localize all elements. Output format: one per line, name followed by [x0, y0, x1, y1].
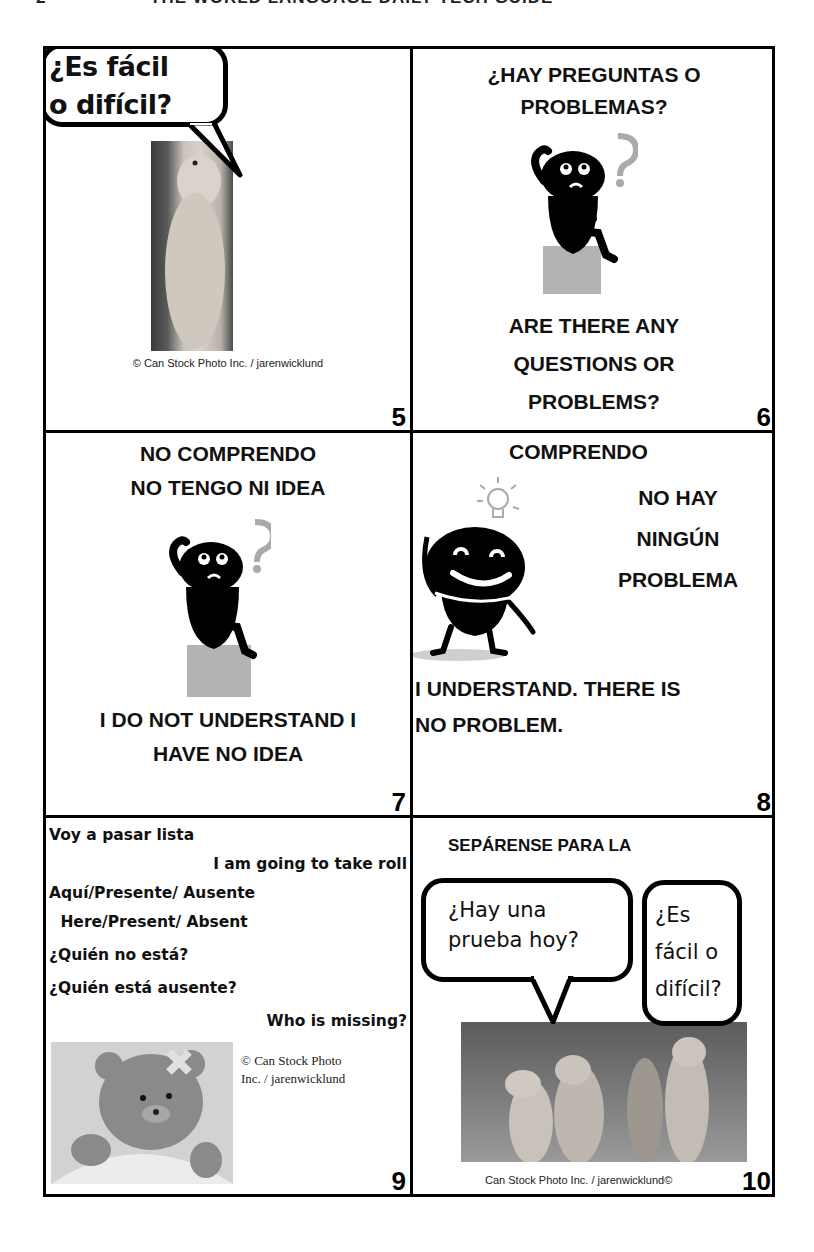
speech-bubble-right: ¿Es fácil o difícil? [642, 880, 742, 1026]
spanish-line-1: NO COMPRENDO [46, 437, 410, 471]
card-number: 9 [392, 1168, 406, 1194]
card-5: ¿Es fácil o difícil? © Can Stock Photo I… [46, 49, 410, 430]
photo-credit: Can Stock Photo Inc. / jarenwicklund© [485, 1174, 672, 1186]
bubble-line-2: o difícil? [49, 86, 172, 124]
spanish-line-2: NO TENGO NI IDEA [46, 471, 410, 505]
card-9: Voy a pasar lista I am going to take rol… [46, 818, 410, 1194]
spanish-top: COMPRENDO [509, 437, 648, 467]
page-title: THE WORLD LANGUAGE DAILY TECH GUIDE [150, 0, 553, 8]
card-10: SEPÁRENSE PARA LA ¿Hay una prueba hoy? [413, 818, 775, 1194]
bubble-right-line-1: ¿Es [655, 897, 722, 934]
thinking-figure-icon [518, 131, 638, 301]
speech-bubble-tail-icon [186, 123, 246, 183]
card-grid: ¿Es fácil o difícil? © Can Stock Photo I… [43, 46, 775, 1197]
english-line-2: NO PROBLEM. [415, 707, 681, 743]
english-line-2: HAVE NO IDEA [46, 737, 410, 771]
thinking-figure-icon [151, 517, 271, 697]
spanish-right-line-2: NINGÚN [603, 518, 753, 559]
roll-line-2: I am going to take roll [49, 849, 407, 880]
spanish-line-1: ¿HAY PREGUNTAS O [413, 59, 775, 91]
photo-credit-line-2: Inc. / jarenwicklund [241, 1070, 345, 1088]
bubble-right-line-3: difícil? [655, 971, 722, 1008]
happy-figure-lightbulb-icon [413, 477, 553, 667]
roll-line-1: Voy a pasar lista [49, 820, 407, 851]
card-number: 5 [392, 404, 406, 430]
four-prairie-dogs-icon [461, 1022, 747, 1162]
bubble-right-line-2: fácil o [655, 934, 722, 971]
english-line-3: PROBLEMS? [413, 383, 775, 421]
english-line-1: I UNDERSTAND. THERE IS [415, 671, 681, 707]
card-6: ¿HAY PREGUNTAS O PROBLEMAS? ARE THERE AN… [413, 49, 775, 430]
roll-line-4: Here/Present/ Absent [49, 907, 407, 938]
card-8: COMPRENDO NO HAY NINGÚN PROBLEMA [413, 433, 775, 815]
heading: SEPÁRENSE PARA LA [448, 836, 631, 856]
photo-credit: © Can Stock Photo Inc. / jarenwicklund [46, 357, 410, 369]
card-number: 7 [392, 789, 406, 815]
prairie-dogs-photo [461, 1022, 747, 1162]
speech-bubble: ¿Es fácil o difícil? [46, 49, 228, 127]
bubble-left-line-1: ¿Hay una [448, 895, 579, 925]
spanish-right-line-1: NO HAY [603, 477, 753, 518]
roll-line-3: Aquí/Presente/ Ausente [49, 878, 407, 909]
card-number: 8 [757, 789, 771, 815]
roll-line-5: ¿Quién no está? [49, 940, 407, 971]
english-line-2: QUESTIONS OR [413, 345, 775, 383]
photo-credit-line-1: © Can Stock Photo [241, 1052, 345, 1070]
speech-bubble-tail-icon [531, 976, 581, 1024]
card-7: NO COMPRENDO NO TENGO NI IDEA I DO NOT U… [46, 433, 410, 815]
teddy-bear-photo [51, 1042, 233, 1184]
spanish-line-2: PROBLEMAS? [413, 91, 775, 123]
english-line-1: I DO NOT UNDERSTAND I [46, 703, 410, 737]
spanish-right-line-3: PROBLEMA [603, 559, 753, 600]
teddy-bear-icon [51, 1042, 233, 1184]
bubble-line-1: ¿Es fácil [49, 49, 172, 86]
card-number: 10 [742, 1168, 771, 1194]
page-header: 2 THE WORLD LANGUAGE DAILY TECH GUIDE [0, 0, 814, 10]
roll-line-6: ¿Quién está ausente? [49, 973, 407, 1004]
page-number: 2 [36, 0, 45, 8]
english-line-1: ARE THERE ANY [413, 307, 775, 345]
roll-line-7: Who is missing? [49, 1006, 407, 1037]
speech-bubble-left: ¿Hay una prueba hoy? [421, 878, 633, 982]
bubble-left-line-2: prueba hoy? [448, 925, 579, 955]
card-number: 6 [757, 404, 771, 430]
